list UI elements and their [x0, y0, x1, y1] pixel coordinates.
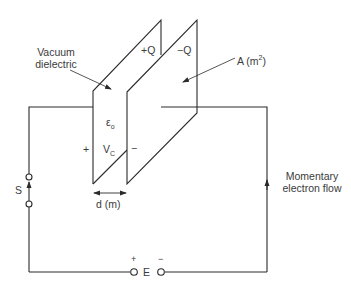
source-label: E: [143, 266, 150, 278]
source-minus-label: −: [158, 253, 163, 265]
epsilon-subscript: o: [111, 123, 115, 130]
dielectric-label-line1: Vacuum: [26, 46, 86, 58]
voltage-subscript: C: [110, 150, 115, 157]
area-text: A (m: [237, 55, 259, 67]
minus-side-label: −: [131, 142, 137, 154]
permittivity-label: εo: [106, 116, 115, 133]
electron-flow-label-line2: electron flow: [274, 182, 350, 194]
distance-label: d (m): [96, 198, 121, 210]
dielectric-label-line2: dielectric: [26, 58, 86, 70]
switch: [26, 174, 32, 207]
electron-flow-label-line1: Momentary: [274, 170, 350, 182]
dielectric-label: Vacuum dielectric: [26, 46, 86, 70]
area-close: ): [263, 55, 267, 67]
area-label: A (m2): [237, 52, 266, 67]
voltage-symbol: V: [103, 143, 110, 155]
source-plus-label: +: [131, 253, 136, 265]
dielectric-pointer-arrow: [70, 70, 111, 89]
voltage-label: VC: [103, 143, 115, 160]
electron-flow-label: Momentary electron flow: [274, 170, 350, 194]
positive-charge-label: +Q: [141, 44, 155, 56]
switch-label: S: [15, 184, 22, 196]
negative-charge-label: −Q: [177, 44, 191, 56]
plus-side-label: +: [83, 143, 89, 155]
capacitor-circuit-diagram: [0, 0, 351, 291]
